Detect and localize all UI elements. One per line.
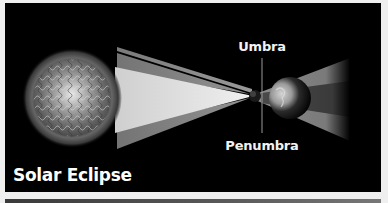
sun-icon [33,59,111,137]
umbra-label: Umbra [238,39,286,54]
earth-icon [269,77,311,119]
penumbra-label: Penumbra [225,138,298,153]
eclipse-diagram [5,3,381,192]
diagram-panel: Umbra Penumbra Solar Eclipse [5,3,381,192]
figure-frame: Umbra Penumbra Solar Eclipse [0,0,388,203]
bottom-rule [5,199,381,203]
moon-icon [249,90,261,102]
figure-title: Solar Eclipse [13,165,132,185]
